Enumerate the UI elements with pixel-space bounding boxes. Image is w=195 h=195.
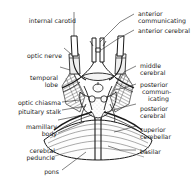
- label-internal-carotid: internal carotid: [4, 17, 76, 24]
- optic-nerve-right: [115, 54, 126, 74]
- label-superior-cerebellar-line2: cerebellar: [140, 133, 194, 140]
- label-pituitary-stalk: pituitary stalk: [1, 108, 61, 115]
- label-posterior-communicating-line3: icating: [148, 95, 194, 102]
- label-anterior-communicating-line2: communicating: [138, 17, 195, 24]
- label-mamillary-body-line2: body: [1, 130, 57, 137]
- circle-of-willis-diagram: internal carotid optic nerve temporal lo…: [0, 0, 195, 195]
- label-optic-chiasma: optic chiasma: [1, 99, 61, 106]
- label-anterior-cerebral: anterior cerebral: [138, 27, 195, 34]
- label-basilar: basilar: [140, 148, 194, 155]
- anterior-cerebral-arteries: [80, 38, 116, 78]
- pituitary-stalk: [93, 82, 103, 92]
- label-cerebral-peduncle-line2: peduncle: [1, 154, 55, 161]
- optic-nerve-left: [69, 54, 80, 74]
- label-temporal-lobe-line2: lobe: [2, 81, 58, 88]
- label-middle-cerebral-line2: cerebral: [140, 69, 194, 76]
- label-posterior-cerebral-line2: cerebral: [140, 112, 194, 119]
- label-pons: pons: [1, 168, 59, 175]
- label-optic-nerve: optic nerve: [2, 52, 62, 59]
